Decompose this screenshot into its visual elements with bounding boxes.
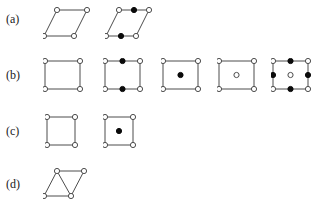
open-lattice-point (103, 58, 108, 63)
open-lattice-point (195, 86, 200, 91)
cell-edges (106, 10, 149, 36)
open-lattice-point (54, 168, 59, 173)
open-lattice-point (68, 193, 73, 198)
cell-edges (47, 117, 75, 145)
open-lattice-point (54, 7, 59, 12)
open-lattice-point (77, 86, 82, 91)
open-lattice-point (130, 114, 135, 119)
rectangular-body-centered-open-cell (217, 58, 259, 94)
filled-lattice-point (288, 58, 293, 63)
cell-edge (57, 171, 71, 196)
cell-edge (44, 171, 57, 196)
open-lattice-point (288, 72, 293, 77)
cell-lattice-points (103, 114, 136, 147)
open-lattice-point (137, 58, 142, 63)
cell-lattice-points (103, 58, 143, 91)
open-lattice-point (72, 114, 77, 119)
open-lattice-point (161, 58, 166, 63)
row-label-b: (b) (6, 68, 20, 83)
open-lattice-point (251, 86, 256, 91)
open-lattice-point (137, 86, 142, 91)
cell-edge (44, 10, 57, 36)
open-lattice-point (271, 58, 276, 63)
open-lattice-point (305, 58, 310, 63)
square-body-centered-cell (103, 114, 139, 150)
open-lattice-point (146, 7, 151, 12)
open-lattice-point (116, 7, 121, 12)
row-label-d: (d) (6, 177, 20, 192)
cell-edges (105, 61, 140, 89)
open-lattice-point (71, 33, 76, 38)
open-lattice-point (45, 142, 50, 147)
open-lattice-point (234, 72, 239, 77)
open-lattice-point (81, 168, 86, 173)
open-lattice-point (77, 58, 82, 63)
cell-edge (74, 10, 87, 36)
filled-lattice-point (288, 86, 293, 91)
oblique-primitive-cell (43, 6, 91, 42)
open-lattice-point (217, 58, 222, 63)
lattice-diagram-figure: (a) (b) (c) (d) (0, 0, 317, 208)
filled-lattice-point (120, 86, 125, 91)
rectangular-all-edge-centered-cell (271, 58, 313, 94)
cell-lattice-points (43, 168, 87, 198)
cell-lattice-points (217, 58, 257, 91)
cell-lattice-points (43, 58, 83, 91)
open-lattice-point (161, 86, 166, 91)
filled-lattice-point (131, 7, 136, 12)
rectangular-body-centered-filled-cell (161, 58, 203, 94)
open-lattice-point (133, 33, 138, 38)
open-lattice-point (43, 86, 48, 91)
cell-edges (44, 171, 84, 196)
open-lattice-point (305, 86, 310, 91)
cell-lattice-points (161, 58, 201, 91)
open-lattice-point (72, 142, 77, 147)
filled-lattice-point (120, 58, 125, 63)
filled-lattice-point (118, 33, 123, 38)
filled-lattice-point (271, 72, 276, 77)
open-lattice-point (195, 58, 200, 63)
cell-edge (136, 10, 149, 36)
cell-edge (71, 171, 84, 196)
open-lattice-point (251, 58, 256, 63)
open-lattice-point (103, 142, 108, 147)
open-lattice-point (43, 33, 47, 38)
open-lattice-point (84, 7, 89, 12)
open-lattice-point (130, 142, 135, 147)
rectangular-primitive-cell (43, 58, 85, 94)
open-lattice-point (105, 33, 109, 38)
rectangular-top-bottom-edge-centered-cell (103, 58, 145, 94)
open-lattice-point (103, 86, 108, 91)
oblique-edge-centered-cell (105, 6, 153, 42)
open-lattice-point (43, 193, 47, 198)
filled-lattice-point (178, 72, 183, 77)
cell-edge (106, 10, 119, 36)
row-label-a: (a) (6, 12, 19, 27)
filled-lattice-point (116, 128, 121, 133)
open-lattice-point (43, 58, 48, 63)
filled-lattice-point (305, 72, 310, 77)
square-primitive-cell (45, 114, 81, 150)
open-lattice-point (271, 86, 276, 91)
cell-edges (45, 61, 80, 89)
open-lattice-point (103, 114, 108, 119)
open-lattice-point (217, 86, 222, 91)
cell-lattice-points (271, 58, 311, 91)
cell-edges (44, 10, 87, 36)
row-label-c: (c) (6, 124, 19, 139)
open-lattice-point (45, 114, 50, 119)
hexagonal-rhombus-cell-with-diagonal (43, 168, 89, 202)
cell-lattice-points (45, 114, 78, 147)
